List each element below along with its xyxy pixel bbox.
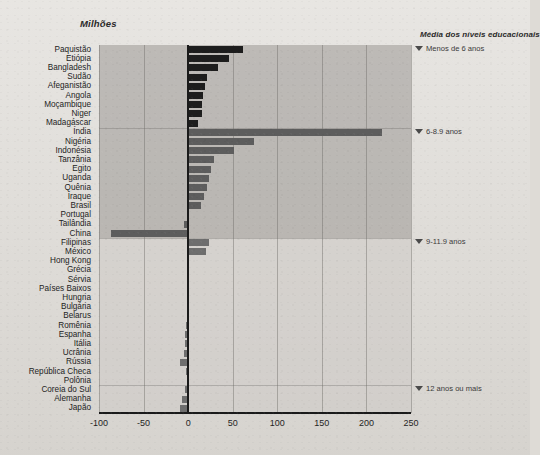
bar-row [99, 367, 411, 376]
x-tick-250: 250 [403, 418, 418, 428]
bar-m-xico [188, 248, 206, 255]
bar-row [99, 128, 411, 137]
bar-row [99, 293, 411, 302]
x-tick-50: 50 [228, 418, 238, 428]
category-label-egito: Egito [72, 164, 91, 173]
category-label-belarus: Belarus [63, 311, 91, 320]
chart-axis-title-milhoes: Milhões [80, 18, 117, 29]
bar-row [99, 349, 411, 358]
bar-uganda [188, 175, 209, 182]
bar-row [99, 73, 411, 82]
education-level-label: 9-11.9 anos [426, 237, 466, 246]
bar-sud-o [188, 74, 207, 81]
bar-row [99, 247, 411, 256]
category-label--ndia: Índia [73, 127, 91, 136]
bar-row [99, 330, 411, 339]
bar-qu-nia [188, 184, 207, 191]
x-tick-neg50: -50 [137, 418, 150, 428]
category-label-china: China [70, 229, 91, 238]
x-tick-200: 200 [359, 418, 374, 428]
bar-row [99, 211, 411, 220]
bar-nig-ria [188, 138, 254, 145]
category-label-r-ssia: Rússia [66, 357, 91, 366]
bar-row [99, 201, 411, 210]
bar-row [99, 146, 411, 155]
plot-area [99, 45, 411, 413]
bar-row [99, 192, 411, 201]
category-label-qu-nia: Quênia [65, 183, 91, 192]
category-label-ucr-nia: Ucrânia [63, 348, 91, 357]
category-label-brasil: Brasil [71, 201, 91, 210]
category-label-paquist-o: Paquistão [55, 45, 91, 54]
education-level-label: 6-8.9 anos [426, 127, 462, 136]
x-axis-line [99, 412, 411, 414]
category-label-tail-ndia: Tailândia [59, 219, 91, 228]
bar-series [99, 45, 411, 413]
category-label-indon-sia: Indonésia [55, 146, 91, 155]
bar-row [99, 339, 411, 348]
bar--ndia [188, 129, 382, 136]
bar-china [111, 230, 188, 237]
category-label-hong-kong: Hong Kong [50, 256, 91, 265]
bar-mo-ambique [188, 101, 202, 108]
category-label-coreia-do-sul: Coreia do Sul [41, 385, 91, 394]
bar-paquist-o [188, 46, 243, 53]
bar-row [99, 395, 411, 404]
bar-eti-pia [188, 55, 229, 62]
category-label-bulg-ria: Bulgária [61, 302, 91, 311]
category-label-espanha: Espanha [59, 330, 91, 339]
category-label-jap-o: Japão [69, 403, 91, 412]
category-label-portugal: Portugal [61, 210, 92, 219]
bar-afeganist-o [188, 83, 205, 90]
category-label-mo-ambique: Moçambique [44, 100, 91, 109]
bar-row [99, 303, 411, 312]
education-level-3: 9-11.9 anos [415, 237, 466, 246]
category-label-pol-nia: Polônia [64, 376, 91, 385]
bar-row [99, 229, 411, 238]
category-label-tanz-nia: Tanzânia [58, 155, 91, 164]
education-level-4: 12 anos ou mais [415, 384, 482, 393]
bar-row [99, 220, 411, 229]
category-label-afeganist-o: Afeganistão [48, 81, 91, 90]
triangle-down-icon [415, 46, 423, 51]
category-label-rom-nia: Romênia [58, 321, 91, 330]
bar-row [99, 238, 411, 247]
bar-row [99, 100, 411, 109]
education-level-2: 6-8.9 anos [415, 127, 462, 136]
triangle-down-icon [415, 239, 423, 244]
category-label-s-rvia: Sérvia [68, 275, 91, 284]
bar-niger [188, 110, 201, 117]
category-label-it-lia: Itália [74, 339, 91, 348]
category-label-eti-pia: Etiópia [66, 54, 91, 63]
bar-row [99, 82, 411, 91]
bar-row [99, 63, 411, 72]
x-tick-100: 100 [270, 418, 285, 428]
category-label-alemanha: Alemanha [54, 394, 91, 403]
category-label-m-xico: México [65, 247, 91, 256]
category-label-filipinas: Filipinas [61, 238, 91, 247]
x-tick-150: 150 [314, 418, 329, 428]
gridline-250 [411, 45, 412, 413]
category-label-madag-scar: Madagáscar [46, 118, 91, 127]
education-level-label: Menos de 6 anos [426, 44, 484, 53]
category-label-gr-cia: Grécia [67, 265, 91, 274]
bar-row [99, 183, 411, 192]
bar-madag-scar [188, 120, 198, 127]
category-label-niger: Niger [71, 109, 91, 118]
bar-row [99, 376, 411, 385]
bar-row [99, 284, 411, 293]
bar-row [99, 54, 411, 63]
bar-row [99, 91, 411, 100]
category-label-nig-ria: Nigéria [65, 137, 91, 146]
bar-row [99, 321, 411, 330]
triangle-down-icon [415, 129, 423, 134]
category-label-uganda: Uganda [62, 173, 91, 182]
bar-row [99, 174, 411, 183]
education-level-label: 12 anos ou mais [426, 384, 482, 393]
zero-line [187, 45, 189, 413]
bar-row [99, 266, 411, 275]
x-tick-0: 0 [186, 418, 191, 428]
triangle-down-icon [415, 386, 423, 391]
bar-row [99, 109, 411, 118]
